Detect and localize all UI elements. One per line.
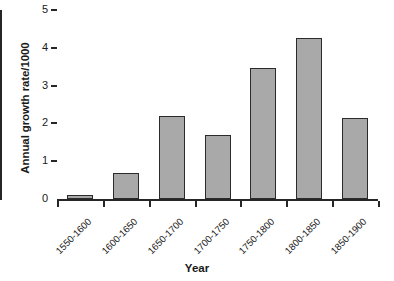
x-tick-mark	[57, 201, 59, 207]
x-axis-title: Year	[0, 262, 394, 274]
bar	[205, 135, 231, 199]
bar	[67, 195, 93, 199]
x-tick-mark	[240, 201, 242, 207]
bar	[342, 118, 368, 199]
bar-chart-figure: Annual growth rate/1000 543210 1550-1600…	[0, 0, 394, 281]
y-tick-mark	[51, 47, 57, 49]
x-tick-mark	[149, 201, 151, 207]
y-tick-label: 4	[18, 42, 48, 53]
y-axis-tick-labels: 543210	[14, 0, 48, 281]
x-tick-label: 1850-1900	[329, 217, 369, 257]
x-tick-mark	[332, 201, 334, 207]
y-tick-mark	[51, 9, 57, 11]
x-tick-mark	[378, 201, 380, 207]
x-tick-mark	[195, 201, 197, 207]
y-tick-label: 3	[18, 80, 48, 91]
y-tick-label: 5	[18, 4, 48, 15]
y-tick-label: 2	[18, 117, 48, 128]
x-axis-line	[57, 199, 378, 201]
x-tick-label: 1600-1650	[100, 217, 140, 257]
y-tick-label: 0	[18, 193, 48, 204]
x-tick-label: 1550-1600	[54, 217, 94, 257]
x-tick-label: 1800-1850	[283, 217, 323, 257]
bar	[113, 173, 139, 199]
bar	[296, 38, 322, 199]
y-axis-line	[0, 10, 2, 200]
bar	[159, 116, 185, 199]
x-tick-mark	[286, 201, 288, 207]
y-tick-mark	[51, 160, 57, 162]
x-tick-label: 1650-1700	[146, 217, 186, 257]
x-tick-label: 1700-1750	[192, 217, 232, 257]
bar	[250, 68, 276, 199]
x-tick-mark	[103, 201, 105, 207]
y-tick-mark	[51, 122, 57, 124]
x-tick-label: 1750-1800	[237, 217, 277, 257]
y-tick-mark	[51, 85, 57, 87]
y-tick-label: 1	[18, 155, 48, 166]
